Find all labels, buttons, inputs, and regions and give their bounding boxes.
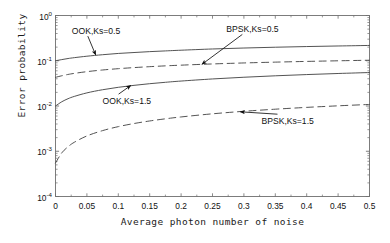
y-tick-label: 10-1 bbox=[37, 55, 52, 67]
annotation-label-2: BPSK,Ks=0.5 bbox=[226, 24, 278, 34]
annotation-arrow-4 bbox=[240, 112, 277, 114]
x-tick-label: 0.2 bbox=[175, 201, 187, 211]
annotation-label-1: OOK,Ks=0.5 bbox=[72, 26, 120, 36]
y-tick-exponent: -1 bbox=[46, 55, 52, 62]
y-tick-label: 10-4 bbox=[37, 191, 52, 203]
x-tick-label: 0.45 bbox=[330, 201, 346, 211]
y-tick-exponent: -2 bbox=[46, 100, 52, 107]
x-tick-label: 0.05 bbox=[79, 201, 95, 211]
annotation-arrow-1 bbox=[88, 36, 96, 55]
x-tick-label: 0.25 bbox=[204, 201, 220, 211]
x-tick-label: 0.4 bbox=[301, 201, 313, 211]
axes-frame bbox=[56, 16, 370, 197]
curve-bpsk-ks-1-5 bbox=[56, 104, 370, 163]
y-tick-exponent: -3 bbox=[46, 145, 52, 152]
curve-bpsk-ks-0-5 bbox=[56, 60, 370, 77]
y-tick-mantissa: 10 bbox=[37, 192, 46, 202]
curve-ook-ks-0-5 bbox=[56, 45, 370, 60]
y-tick-mantissa: 10 bbox=[37, 102, 46, 112]
x-axis-label: Average photon number of noise bbox=[55, 216, 370, 227]
y-tick-exponent: 0 bbox=[49, 10, 52, 17]
annotation-label-3: OOK,Ks=1.5 bbox=[103, 96, 151, 106]
annotation-label-4: BPSK,Ks=1.5 bbox=[262, 116, 314, 126]
y-tick-label: 100 bbox=[39, 10, 52, 22]
y-axis-label: Error probability bbox=[16, 1, 27, 131]
x-tick-label: 0.3 bbox=[238, 201, 250, 211]
y-tick-mantissa: 10 bbox=[37, 57, 46, 67]
x-tick-label: 0.35 bbox=[267, 201, 283, 211]
y-tick-mantissa: 10 bbox=[39, 11, 48, 21]
x-tick-label: 0.1 bbox=[112, 201, 124, 211]
y-tick-label: 10-3 bbox=[37, 145, 52, 157]
x-tick-label: 0.5 bbox=[364, 201, 376, 211]
x-tick-label: 0.15 bbox=[142, 201, 158, 211]
y-tick-label: 10-2 bbox=[37, 100, 52, 112]
x-tick-label: 0 bbox=[53, 201, 58, 211]
y-tick-mantissa: 10 bbox=[37, 147, 46, 157]
chart-figure: Error probability Average photon number … bbox=[0, 0, 390, 243]
y-tick-exponent: -4 bbox=[46, 191, 52, 198]
